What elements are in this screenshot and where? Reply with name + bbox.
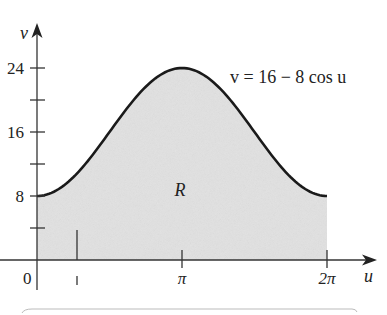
area-chart: v 24 16 8 0 π 2π u R v = 16 − 8 cos u (0, 0, 387, 315)
y-axis-label: v (20, 23, 28, 43)
x-axis-label: u (364, 266, 373, 286)
y-tick-label-16: 16 (7, 123, 24, 142)
region-label: R (174, 180, 186, 200)
shaded-region-r (37, 68, 327, 260)
x-tick-label-pi: π (178, 269, 187, 288)
y-tick-label-24: 24 (7, 59, 25, 78)
bottom-divider (22, 309, 357, 313)
y-tick-label-8: 8 (16, 187, 25, 206)
x-tick-label-2pi: 2π (318, 269, 336, 288)
function-equation-label: v = 16 − 8 cos u (230, 67, 346, 87)
origin-label: 0 (23, 269, 32, 288)
